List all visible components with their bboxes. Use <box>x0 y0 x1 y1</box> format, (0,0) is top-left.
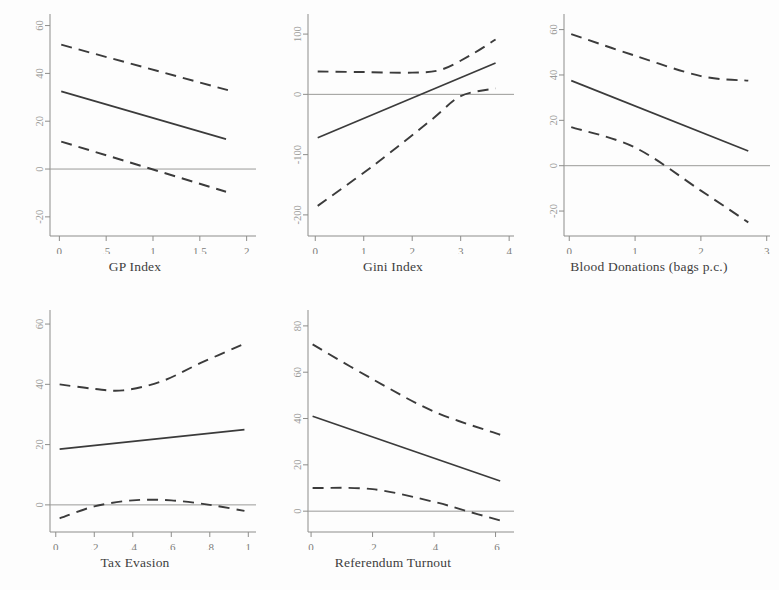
svg-text:-20: -20 <box>548 204 559 218</box>
svg-text:-200: -200 <box>292 205 303 224</box>
series-lower_ci <box>61 142 226 192</box>
svg-text:1: 1 <box>150 245 156 254</box>
svg-text:4: 4 <box>506 245 512 254</box>
svg-text:.6: .6 <box>167 541 176 550</box>
svg-text:.5: .5 <box>102 245 111 254</box>
svg-text:0: 0 <box>292 92 303 97</box>
svg-text:1.5: 1.5 <box>193 245 207 254</box>
svg-text:3: 3 <box>458 245 464 254</box>
svg-text:20: 20 <box>34 439 45 450</box>
panel-referendum-turnout: 0204060800.2.4.6 Referendum Turnout <box>268 300 518 586</box>
panel-tax-evasion: 02040600.2.4.6.81 Tax Evasion <box>10 300 260 586</box>
series-fit <box>571 81 748 151</box>
panel-blood-donations-xlabel: Blood Donations (bags p.c.) <box>524 259 774 275</box>
series-lower_ci <box>318 88 496 206</box>
svg-text:0: 0 <box>53 541 59 550</box>
panel-referendum-turnout-xlabel: Referendum Turnout <box>268 555 518 571</box>
series-upper_ci <box>571 34 748 80</box>
svg-text:0: 0 <box>548 163 559 168</box>
svg-text:.8: .8 <box>206 541 215 550</box>
series-fit <box>61 91 226 139</box>
series-upper_ci <box>61 45 228 90</box>
svg-text:.4: .4 <box>129 541 138 550</box>
svg-text:1: 1 <box>632 245 638 254</box>
svg-text:60: 60 <box>34 20 45 31</box>
panel-gp-index: -2002040600.511.52 GP Index <box>10 4 260 290</box>
svg-text:0: 0 <box>34 166 45 171</box>
series-fit <box>60 430 245 450</box>
svg-text:-20: -20 <box>34 210 45 224</box>
series-fit <box>313 416 501 481</box>
svg-text:3: 3 <box>764 245 770 254</box>
svg-text:0: 0 <box>313 245 319 254</box>
panel-gp-index-plot: -2002040600.511.52 <box>10 4 260 254</box>
svg-text:20: 20 <box>292 460 303 471</box>
series-upper_ci <box>60 344 245 391</box>
svg-text:2: 2 <box>698 245 704 254</box>
svg-text:100: 100 <box>292 26 303 42</box>
panel-gini-index: -200-100010001234 Gini Index <box>268 4 518 290</box>
series-upper_ci <box>313 344 501 434</box>
svg-text:40: 40 <box>292 413 303 424</box>
series-lower_ci <box>571 127 748 222</box>
svg-text:80: 80 <box>292 321 303 332</box>
svg-text:0: 0 <box>308 541 314 550</box>
svg-text:.2: .2 <box>368 541 376 550</box>
panel-tax-evasion-xlabel: Tax Evasion <box>10 555 260 571</box>
panel-gini-index-xlabel: Gini Index <box>268 259 518 275</box>
svg-text:0: 0 <box>57 245 63 254</box>
svg-text:60: 60 <box>34 319 45 330</box>
svg-text:.4: .4 <box>430 541 439 550</box>
svg-text:2: 2 <box>244 245 250 254</box>
series-lower_ci <box>313 488 501 521</box>
series-upper_ci <box>318 40 496 73</box>
panel-blood-donations: -2002040600123 Blood Donations (bags p.c… <box>524 4 774 290</box>
svg-text:2: 2 <box>409 245 415 254</box>
svg-text:0: 0 <box>292 509 303 514</box>
svg-text:1: 1 <box>361 245 367 254</box>
series-fit <box>318 63 496 138</box>
svg-text:40: 40 <box>34 379 45 390</box>
svg-text:.2: .2 <box>90 541 98 550</box>
svg-text:1: 1 <box>246 541 252 550</box>
svg-text:40: 40 <box>34 68 45 79</box>
svg-text:.6: .6 <box>491 541 500 550</box>
svg-text:0: 0 <box>567 245 573 254</box>
svg-text:0: 0 <box>34 502 45 507</box>
svg-text:-100: -100 <box>292 145 303 164</box>
svg-text:40: 40 <box>548 70 559 81</box>
svg-text:20: 20 <box>34 116 45 127</box>
panel-blood-donations-plot: -2002040600123 <box>524 4 774 254</box>
panel-referendum-turnout-plot: 0204060800.2.4.6 <box>268 300 518 550</box>
svg-text:60: 60 <box>292 367 303 378</box>
panel-gp-index-xlabel: GP Index <box>10 259 260 275</box>
panel-gini-index-plot: -200-100010001234 <box>268 4 518 254</box>
marginal-effects-figure: -2002040600.511.52 GP Index -200-1000100… <box>0 0 779 590</box>
svg-text:20: 20 <box>548 115 559 126</box>
svg-text:60: 60 <box>548 24 559 34</box>
panel-tax-evasion-plot: 02040600.2.4.6.81 <box>10 300 260 550</box>
series-lower_ci <box>60 500 245 519</box>
